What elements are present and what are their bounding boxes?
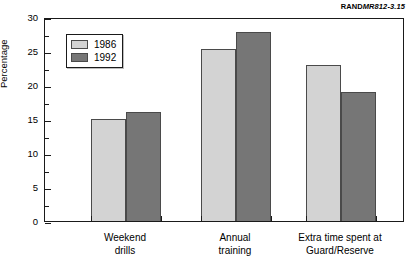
x-axis-category-label: Extra time spent at Guard/Reserve [265, 232, 415, 257]
bar [306, 65, 341, 221]
y-tick-major [45, 53, 51, 54]
source-tag: RANDMR812-3.15 [341, 2, 405, 11]
legend: 19861992 [66, 34, 123, 68]
category-separator [271, 216, 272, 221]
legend-label: 1992 [94, 53, 116, 63]
y-tick-major [45, 189, 51, 190]
bar [341, 92, 376, 221]
y-tick-minor [45, 206, 49, 207]
legend-item: 1992 [71, 51, 116, 64]
y-tick-minor [45, 104, 49, 105]
y-tick-label: 25 [8, 47, 38, 57]
y-tick-major [45, 121, 51, 122]
category-separator [161, 216, 162, 221]
y-tick-minor [45, 36, 49, 37]
y-tick-minor [45, 138, 49, 139]
category-separator [376, 216, 377, 221]
bar [201, 49, 236, 221]
legend-swatch [71, 40, 88, 49]
legend-swatch [71, 53, 88, 62]
y-tick-label: 20 [8, 81, 38, 91]
y-tick-major [45, 87, 51, 88]
y-tick-label: 0 [8, 217, 38, 227]
y-tick-major [45, 19, 51, 20]
bar [236, 32, 271, 221]
y-tick-major [45, 223, 51, 224]
y-tick-minor [45, 70, 49, 71]
category-separator [91, 216, 92, 221]
y-tick-label: 15 [8, 115, 38, 125]
y-tick-minor [45, 172, 49, 173]
bar [126, 112, 161, 221]
y-tick-label: 10 [8, 149, 38, 159]
bar [91, 119, 126, 221]
y-tick-major [45, 155, 51, 156]
source-tag-code: MR812-3.15 [363, 2, 405, 11]
y-tick-label: 5 [8, 183, 38, 193]
legend-label: 1986 [94, 40, 116, 50]
legend-item: 1986 [71, 38, 116, 51]
y-tick-label: 30 [8, 13, 38, 23]
category-separator [201, 216, 202, 221]
category-separator [306, 216, 307, 221]
source-tag-brand: RAND [341, 2, 363, 11]
